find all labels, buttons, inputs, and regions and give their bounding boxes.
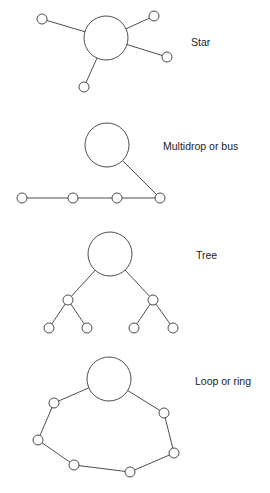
ring-node — [169, 448, 179, 458]
bus-node — [17, 193, 27, 203]
bus-topology — [17, 123, 165, 203]
tree-leaf-node — [44, 323, 54, 333]
ring-topology — [33, 357, 179, 477]
tree-leaf-node — [168, 323, 178, 333]
star-topology — [37, 11, 172, 92]
ring-node — [49, 398, 59, 408]
ring-node — [125, 467, 135, 477]
star-node — [37, 14, 47, 24]
ring-label: Loop or ring — [195, 375, 251, 387]
tree-branch-node — [63, 295, 73, 305]
tree-leaf-node — [129, 323, 139, 333]
ring-node — [159, 408, 169, 418]
bus-node — [155, 193, 165, 203]
star-node — [162, 52, 172, 62]
star-node — [79, 82, 89, 92]
star-hub-node — [84, 16, 128, 60]
bus-host-node — [85, 123, 129, 167]
topology-diagram — [0, 0, 270, 493]
bus-label: Multidrop or bus — [163, 140, 238, 152]
star-label: Star — [191, 36, 210, 48]
tree-leaf-node — [82, 323, 92, 333]
bus-node — [112, 193, 122, 203]
tree-topology — [44, 232, 178, 333]
tree-label: Tree — [196, 249, 217, 261]
star-node — [149, 11, 159, 21]
ring-host-node — [87, 357, 131, 401]
tree-branch-node — [148, 295, 158, 305]
bus-node — [68, 193, 78, 203]
ring-node — [69, 460, 79, 470]
tree-root-node — [88, 232, 132, 276]
ring-node — [33, 435, 43, 445]
